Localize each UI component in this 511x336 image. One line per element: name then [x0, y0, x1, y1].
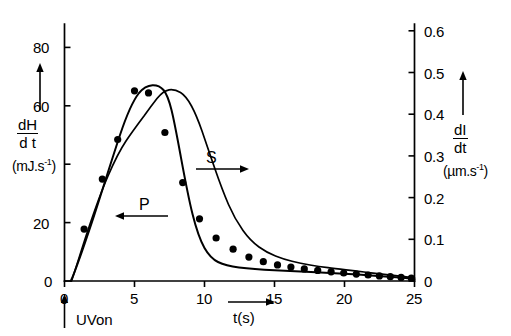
left-axis-numerator: dH	[17, 117, 38, 134]
bottom-tick-label-10: 10	[196, 291, 212, 306]
data-point	[230, 246, 237, 253]
bottom-tick-label-20: 20	[336, 291, 352, 306]
data-point	[353, 271, 360, 278]
right-axis-numerator: dI	[453, 122, 468, 139]
left-tick-label-80: 80	[33, 40, 49, 55]
left-axis-units: (mJ.s-1)	[12, 158, 56, 173]
right-axis-ticks	[409, 31, 415, 281]
right-axis-title: dI dt	[453, 122, 468, 156]
left-axis-denominator: d t	[17, 134, 38, 151]
data-point	[131, 87, 138, 94]
bottom-tick-label-25: 25	[406, 291, 422, 306]
right-tick-label-0.4: 0.4	[424, 107, 444, 122]
data-point	[287, 264, 294, 271]
right-tick-label-0: 0	[424, 274, 432, 289]
data-point	[245, 254, 252, 261]
bottom-axis-title: t(s)	[233, 310, 255, 325]
uv-on-label: UVon	[76, 312, 113, 327]
data-point	[274, 261, 281, 268]
curve-s	[72, 90, 415, 281]
data-point	[376, 272, 383, 279]
left-axis-units-prefix: (mJ.s	[12, 158, 44, 174]
data-point	[301, 265, 308, 272]
p-annotation-arrow	[115, 212, 168, 220]
data-point	[179, 179, 186, 186]
right-tick-label-0.2: 0.2	[424, 191, 444, 206]
right-tick-label-0.3: 0.3	[424, 149, 444, 164]
bottom-tick-label-15: 15	[266, 291, 282, 306]
data-point	[387, 273, 394, 280]
data-point	[408, 274, 415, 281]
bottom-tick-label-5: 5	[130, 291, 138, 306]
right-tick-label-0.6: 0.6	[424, 24, 444, 39]
right-axis-direction-arrow	[459, 71, 466, 115]
data-point	[196, 215, 203, 222]
data-point	[114, 136, 121, 143]
right-axis-units-prefix: (µm.s	[443, 163, 476, 179]
data-point	[260, 258, 267, 265]
left-axis-title: dH d t	[17, 117, 38, 151]
curve-p	[71, 85, 415, 281]
right-tick-label-0.1: 0.1	[424, 232, 444, 247]
figure-container: 0 20 40 60 80 dH d t (mJ.s-1) 0 0.1 0.2 …	[0, 0, 511, 336]
data-point	[213, 234, 220, 241]
s-annotation-arrow	[196, 165, 249, 173]
data-point	[161, 129, 168, 136]
series-label-p: P	[139, 197, 150, 213]
series-label-s: S	[206, 150, 217, 166]
curve-s-data-points	[81, 87, 415, 281]
data-point	[145, 89, 152, 96]
plot-area	[0, 0, 511, 336]
data-point	[314, 267, 321, 274]
right-axis-units-suffix: )	[483, 163, 487, 179]
right-axis-units: (µm.s-1)	[443, 163, 488, 178]
bottom-tick-label-0: 0	[60, 291, 68, 306]
left-tick-label-60: 60	[33, 99, 49, 114]
left-tick-label-0: 0	[44, 274, 52, 289]
data-point	[398, 274, 405, 281]
bottom-axis-ticks	[65, 281, 415, 287]
left-axis-ticks	[65, 47, 71, 281]
right-axis-denominator: dt	[453, 139, 468, 156]
data-point	[328, 268, 335, 275]
data-point	[365, 271, 372, 278]
data-point	[340, 269, 347, 276]
left-tick-label-20: 20	[33, 216, 49, 231]
right-tick-label-0.5: 0.5	[424, 66, 444, 81]
data-point	[99, 176, 106, 183]
left-axis-units-suffix: )	[51, 158, 55, 174]
data-point	[81, 226, 88, 233]
